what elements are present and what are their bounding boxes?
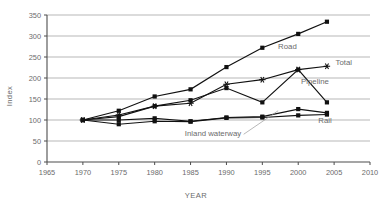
y-axis bbox=[44, 15, 47, 162]
marker-square bbox=[296, 68, 300, 72]
x-tick-label: 1975 bbox=[111, 168, 127, 177]
y-tick-label: 50 bbox=[33, 137, 41, 146]
marker-star bbox=[324, 63, 330, 69]
marker-square bbox=[296, 107, 300, 111]
y-tick-label: 300 bbox=[29, 32, 41, 41]
x-tick-label: 2005 bbox=[326, 168, 342, 177]
marker-square bbox=[188, 87, 192, 91]
x-tick-label: 1985 bbox=[182, 168, 198, 177]
series-label-rail: Rail bbox=[318, 116, 332, 125]
y-tick-label: 100 bbox=[29, 116, 41, 125]
marker-square bbox=[325, 20, 329, 24]
annotation-group bbox=[244, 111, 278, 135]
x-tick-label: 1965 bbox=[39, 168, 55, 177]
series-label-inland-waterway: Inland waterway bbox=[185, 129, 241, 138]
x-axis-tick-labels: 1965197019751980198519901995200020052010 bbox=[39, 168, 378, 177]
data-series-group bbox=[80, 20, 330, 127]
marker-square bbox=[81, 118, 85, 122]
x-tick-label: 1990 bbox=[218, 168, 234, 177]
x-axis-title: YEAR bbox=[185, 191, 207, 200]
y-tick-label: 200 bbox=[29, 74, 41, 83]
y-tick-label: 0 bbox=[37, 158, 41, 167]
marker-square bbox=[260, 100, 264, 104]
marker-square bbox=[224, 65, 228, 69]
y-axis-tick-labels: 050100150200250300350 bbox=[29, 11, 41, 167]
x-tick-label: 2010 bbox=[362, 168, 378, 177]
marker-square bbox=[325, 100, 329, 104]
x-tick-label: 1970 bbox=[75, 168, 91, 177]
marker-square bbox=[153, 104, 157, 108]
series-label-pipeline: Pipeline bbox=[301, 77, 329, 86]
x-tick-label: 1995 bbox=[254, 168, 270, 177]
y-tick-label: 350 bbox=[29, 11, 41, 20]
marker-square bbox=[296, 32, 300, 36]
marker-square bbox=[224, 86, 228, 90]
marker-square bbox=[260, 46, 264, 50]
marker-square bbox=[188, 120, 192, 124]
x-tick-label: 2000 bbox=[290, 168, 306, 177]
x-axis bbox=[47, 162, 370, 165]
y-tick-label: 250 bbox=[29, 53, 41, 62]
chart-container: 050100150200250300350 196519701975198019… bbox=[0, 0, 383, 206]
marker-square bbox=[188, 98, 192, 102]
annotation-leader-line bbox=[244, 111, 278, 135]
marker-square bbox=[296, 113, 300, 117]
marker-square bbox=[117, 122, 121, 126]
line-chart: 050100150200250300350 196519701975198019… bbox=[0, 0, 383, 206]
marker-square bbox=[153, 94, 157, 98]
series-line bbox=[83, 22, 327, 120]
marker-square bbox=[224, 116, 228, 120]
series-label-road: Road bbox=[278, 42, 297, 51]
series-label-total: Total bbox=[336, 58, 353, 67]
x-tick-label: 1980 bbox=[146, 168, 162, 177]
marker-square bbox=[153, 119, 157, 123]
series-total bbox=[80, 63, 330, 122]
marker-square bbox=[117, 118, 121, 122]
y-axis-title: Index bbox=[5, 86, 14, 107]
marker-square bbox=[260, 115, 264, 119]
y-tick-label: 150 bbox=[29, 95, 41, 104]
